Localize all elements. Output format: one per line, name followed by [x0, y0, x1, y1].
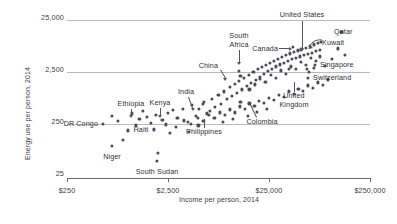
- data-point: [213, 117, 216, 120]
- annotation-kuwait: Kuwait: [322, 39, 344, 48]
- annotation-niger: Niger: [103, 153, 121, 162]
- leader-united-kingdom: [294, 82, 295, 92]
- data-point: [277, 57, 280, 60]
- data-point: [238, 79, 241, 82]
- annotation-uk-line2: Kingdom: [279, 100, 308, 109]
- data-point: [308, 44, 311, 47]
- annotation-haiti: Haiti: [134, 126, 149, 135]
- data-point: [268, 61, 271, 64]
- data-point: [223, 90, 226, 93]
- data-point: [321, 83, 324, 86]
- data-point: [316, 41, 319, 44]
- data-point: [313, 66, 316, 69]
- data-point: [302, 53, 305, 56]
- annotation-united-states: United States: [280, 11, 324, 20]
- data-point: [318, 55, 321, 58]
- data-point: [318, 48, 321, 51]
- data-point: [254, 78, 257, 81]
- data-point: [240, 88, 243, 91]
- arrowhead-china: [223, 78, 227, 81]
- annotation-canada: Canada: [252, 45, 278, 54]
- arrowhead-canada: [289, 47, 292, 51]
- data-point: [312, 43, 315, 46]
- data-point: [238, 105, 241, 108]
- data-point: [198, 107, 201, 110]
- data-point: [247, 73, 250, 76]
- data-point: [166, 111, 169, 114]
- annotation-united-kingdom: United Kingdom: [279, 92, 308, 109]
- leader-philippines: [204, 119, 205, 128]
- data-point: [138, 117, 141, 120]
- data-point: [272, 98, 275, 101]
- annotation-dr-congo: DR Congo: [64, 120, 98, 129]
- annotation-singapore: Singapore: [320, 61, 354, 70]
- data-point: [228, 85, 231, 88]
- data-point: [260, 65, 263, 68]
- data-point: [116, 120, 119, 123]
- data-point: [310, 51, 313, 54]
- data-point: [217, 93, 220, 96]
- data-point: [126, 129, 129, 132]
- data-point: [256, 68, 259, 71]
- data-point: [311, 86, 314, 89]
- scatter-plot-figure: 25,000 2,500 250 25 $250 $2,500 $25,000 …: [0, 0, 397, 224]
- data-point: [269, 73, 272, 76]
- arrowhead-united-states: [300, 48, 304, 51]
- data-point: [223, 114, 226, 117]
- data-point: [243, 76, 246, 79]
- arrowhead-india: [191, 108, 195, 111]
- data-point: [208, 109, 211, 112]
- data-point: [239, 100, 242, 103]
- data-point: [228, 108, 231, 111]
- data-point: [297, 87, 300, 90]
- data-point: [218, 111, 221, 114]
- data-point: [264, 63, 267, 66]
- data-point: [294, 56, 297, 59]
- annotation-colombia: Colombia: [246, 118, 277, 127]
- data-point: [266, 69, 269, 72]
- data-point: [196, 116, 199, 119]
- data-point: [213, 105, 216, 108]
- annotation-ethiopia: Ethiopia: [118, 100, 145, 109]
- data-point: [248, 88, 251, 91]
- data-point: [259, 77, 262, 80]
- data-point: [315, 59, 318, 62]
- data-point: [122, 139, 125, 142]
- data-point: [290, 58, 293, 61]
- data-point: [307, 70, 310, 73]
- annotation-kenya: Kenya: [150, 99, 171, 108]
- data-point: [181, 107, 184, 110]
- data-point: [176, 116, 179, 119]
- data-point: [222, 120, 225, 123]
- data-point: [281, 55, 284, 58]
- data-point: [203, 100, 206, 103]
- data-point: [237, 69, 240, 72]
- annotation-switzerland: Switzerland: [313, 74, 351, 83]
- data-point: [273, 59, 276, 62]
- data-point: [283, 61, 286, 64]
- arrowhead-ethiopia: [129, 115, 133, 118]
- data-point: [233, 82, 236, 85]
- data-point: [141, 109, 144, 112]
- annotation-india: India: [178, 88, 194, 97]
- arrowhead-kenya: [158, 115, 162, 118]
- data-point: [233, 111, 236, 114]
- data-point: [189, 122, 192, 125]
- data-point: [290, 65, 293, 68]
- data-point: [300, 60, 303, 63]
- data-point: [286, 59, 289, 62]
- data-point: [145, 115, 148, 118]
- data-point: [220, 102, 223, 105]
- data-point: [111, 114, 114, 117]
- data-point: [161, 118, 164, 121]
- annotation-south-africa: South Africa: [229, 32, 248, 49]
- annotation-south-africa-line2: Africa: [230, 40, 249, 49]
- data-point: [343, 53, 346, 56]
- data-point: [239, 74, 242, 77]
- data-point: [152, 128, 155, 131]
- data-point: [284, 53, 287, 56]
- data-point: [292, 50, 295, 53]
- data-point: [255, 110, 258, 113]
- data-point: [275, 76, 278, 79]
- data-point: [157, 151, 160, 154]
